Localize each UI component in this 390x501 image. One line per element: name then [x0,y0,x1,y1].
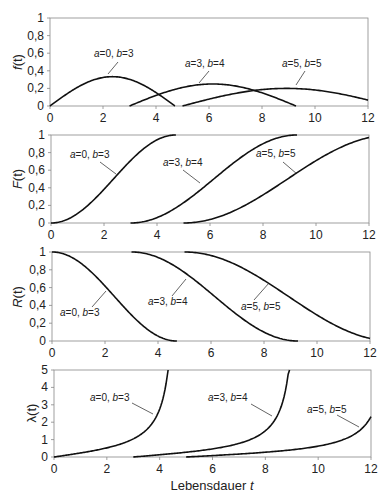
svg-text:0,2: 0,2 [27,81,44,95]
svg-text:8: 8 [260,228,267,242]
x-ticks: 024681012 [48,223,376,242]
svg-text:10: 10 [309,228,323,242]
leader-line [172,279,186,296]
svg-text:6: 6 [207,228,214,242]
svg-text:12: 12 [363,346,377,360]
svg-text:4: 4 [154,228,161,242]
annotation-a5-b5: a=5, b=5 [256,148,296,159]
y-axis-label: R(t) [10,286,25,308]
annotation-a0-b3: a=0, b=3 [70,149,110,160]
svg-text:0: 0 [39,334,46,348]
svg-text:8: 8 [259,111,266,125]
svg-text:0,4: 0,4 [29,298,46,312]
svg-text:6: 6 [209,462,216,476]
y-axis-label: F(t) [10,169,25,189]
svg-text:0,4: 0,4 [27,64,44,78]
reliability-charts: f(t) 00,20,40,60,81 024681012 a=0, b=3 a… [0,0,390,501]
leader-line [183,170,200,183]
svg-text:0: 0 [41,450,48,464]
svg-text:1: 1 [39,245,46,259]
annotation-a0-b3: a=0, b=3 [60,307,100,318]
svg-text:3: 3 [41,398,48,412]
svg-text:12: 12 [361,111,375,125]
svg-text:2: 2 [100,111,107,125]
svg-text:4: 4 [153,111,160,125]
leader-line [251,404,272,416]
annotation-a3-b4: a=3, b=4 [208,392,248,403]
curve-line [130,84,297,106]
y-ticks: 012345 [41,363,54,464]
svg-text:1: 1 [37,11,44,25]
plot-frame [52,252,370,341]
svg-text:10: 10 [311,462,325,476]
svg-text:2: 2 [101,228,108,242]
y-ticks: 00,20,40,60,81 [29,245,52,348]
annotation-a3-b4: a=3, b=4 [148,296,188,307]
x-ticks: 024681012 [49,341,377,360]
svg-text:0,2: 0,2 [29,316,46,330]
panel-cdf: F(t) 00,20,40,60,81 024681012 a=0, b=3 a… [10,128,376,242]
svg-text:0: 0 [47,111,54,125]
svg-text:4: 4 [156,462,163,476]
curve-line [50,77,175,106]
leader-line [337,415,359,427]
leader-line [100,162,116,174]
x-ticks: 024681012 [51,457,378,476]
svg-text:0,8: 0,8 [28,146,45,160]
y-axis-label: f(t) [10,54,25,70]
svg-text:6: 6 [208,346,215,360]
svg-text:0,8: 0,8 [27,29,44,43]
svg-text:0: 0 [51,462,58,476]
annotation-a3-b4: a=3, b=4 [163,157,203,168]
svg-text:0,2: 0,2 [28,198,45,212]
svg-text:0,6: 0,6 [28,163,45,177]
svg-text:1: 1 [41,433,48,447]
x-axis-label: Lebensdauer t [170,478,255,493]
y-ticks: 00,20,40,60,81 [27,11,50,113]
annotation-a0-b3: a=0, b=3 [90,392,130,403]
leader-line [92,291,106,307]
svg-text:6: 6 [206,111,213,125]
leader-line [199,71,209,83]
panel-density: f(t) 00,20,40,60,81 024681012 a=0, b=3 a… [10,11,375,125]
svg-text:0,6: 0,6 [27,46,44,60]
leader-line [132,403,153,414]
svg-text:8: 8 [262,462,269,476]
annotation-a5-b5: a=5, b=5 [241,301,281,312]
curve-line [186,417,371,457]
svg-text:12: 12 [364,462,378,476]
curve-line [133,370,289,457]
y-ticks: 00,20,40,60,81 [28,128,51,230]
curves [52,252,370,341]
curves [50,77,368,106]
leader-line [283,162,297,174]
leader-line [254,283,269,300]
svg-text:10: 10 [308,111,322,125]
panel-reliability: R(t) 00,20,40,60,81 024681012 a=0, b=3 a… [10,245,377,360]
leader-line [108,62,118,74]
svg-text:0,6: 0,6 [29,281,46,295]
svg-text:4: 4 [41,380,48,394]
svg-text:2: 2 [41,415,48,429]
svg-text:0,4: 0,4 [28,181,45,195]
svg-text:4: 4 [155,346,162,360]
svg-text:0,8: 0,8 [29,263,46,277]
curve-line [54,370,168,457]
svg-text:10: 10 [310,346,324,360]
annotation-a0-b3: a=0, b=3 [94,48,134,59]
annotation-a3-b4: a=3, b=4 [185,58,225,69]
svg-text:1: 1 [38,128,45,142]
svg-text:12: 12 [362,228,376,242]
svg-text:2: 2 [103,462,110,476]
svg-text:2: 2 [102,346,109,360]
svg-text:0: 0 [37,99,44,113]
x-ticks: 024681012 [47,106,375,125]
annotation-a5-b5: a=5, b=5 [307,404,347,415]
svg-text:8: 8 [261,346,268,360]
annotation-a5-b5: a=5, b=5 [282,58,322,69]
y-axis-label: λ(t) [24,404,39,423]
svg-text:0: 0 [38,216,45,230]
svg-text:5: 5 [41,363,48,377]
leader-line [296,71,305,85]
panel-hazard: λ(t) 012345 024681012 a=0, b=3 a=3, b=4 … [24,363,378,493]
